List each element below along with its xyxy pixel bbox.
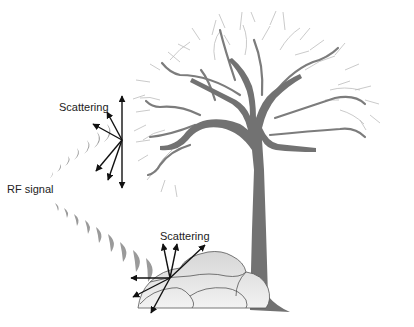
label-scattering-top: Scattering: [59, 101, 109, 113]
label-rf-signal: RF signal: [7, 183, 53, 195]
rf-signal-waves: [50, 124, 153, 282]
tree: [133, 11, 380, 312]
label-scattering-bottom: Scattering: [160, 230, 210, 242]
diagram-canvas: [0, 0, 414, 327]
